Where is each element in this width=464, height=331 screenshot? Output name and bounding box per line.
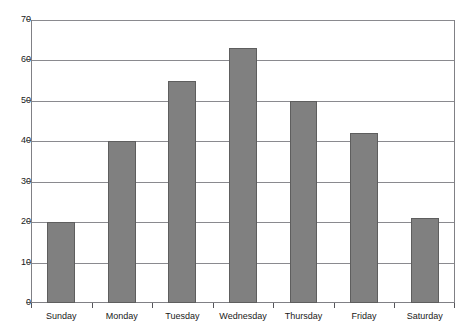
bar-slot <box>213 20 274 303</box>
bar-slot <box>152 20 213 303</box>
bar-wednesday[interactable] <box>229 48 257 303</box>
x-axis-tick-mark <box>273 303 274 308</box>
x-axis-tick-label: Wednesday <box>213 311 274 321</box>
x-axis-tick-label: Saturday <box>394 311 455 321</box>
bar-friday[interactable] <box>350 133 378 303</box>
x-axis-tick-mark <box>213 303 214 308</box>
bar-saturday[interactable] <box>411 218 439 303</box>
bar-thursday[interactable] <box>290 101 318 303</box>
bar-chart-figure: 706050403020100 SundayMondayTuesdayWedne… <box>0 0 464 331</box>
bar-series <box>31 20 455 303</box>
bar-sunday[interactable] <box>47 222 75 303</box>
x-axis-tick-label: Monday <box>92 311 153 321</box>
x-axis-tick-label: Thursday <box>273 311 334 321</box>
bar-slot <box>273 20 334 303</box>
x-axis-tick-mark <box>152 303 153 308</box>
bar-monday[interactable] <box>108 141 136 303</box>
bar-slot <box>31 20 92 303</box>
x-axis-tick-mark <box>31 303 32 308</box>
clipped-chart-title <box>0 0 464 7</box>
x-axis-tick-mark <box>334 303 335 308</box>
bar-tuesday[interactable] <box>168 81 196 303</box>
bar-slot <box>334 20 395 303</box>
y-axis: 706050403020100 <box>0 0 31 331</box>
x-axis-tick-label: Sunday <box>31 311 92 321</box>
x-axis-tick-mark <box>454 303 455 308</box>
x-axis: SundayMondayTuesdayWednesdayThursdayFrid… <box>31 303 455 331</box>
x-axis-tick-label: Tuesday <box>152 311 213 321</box>
bar-slot <box>92 20 153 303</box>
x-axis-tick-label: Friday <box>334 311 395 321</box>
x-axis-tick-mark <box>394 303 395 308</box>
bar-slot <box>394 20 455 303</box>
x-axis-tick-mark <box>92 303 93 308</box>
